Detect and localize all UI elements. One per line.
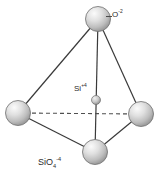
- oxygen-sphere-left: [6, 101, 31, 126]
- atom-oxygen-left: [6, 101, 31, 126]
- silicon-label: Si+4: [74, 84, 87, 93]
- oxygen-sphere-right: [129, 102, 154, 127]
- oxygen-sphere-top: [86, 7, 111, 32]
- bond-top-left: [18, 19, 98, 113]
- formula-subscript: 4: [53, 163, 56, 169]
- oxygen-sphere-bottom: [83, 140, 108, 165]
- silicate-tetrahedron-diagram: O-2 Si+4 SiO4-4: [0, 0, 160, 184]
- atom-silicon-center: [92, 96, 101, 105]
- atom-oxygen-top: [86, 7, 111, 32]
- bond-top-bottom: [95, 19, 98, 152]
- oxygen-label: O-2: [112, 10, 123, 19]
- atom-oxygen-bottom: [83, 140, 108, 165]
- formula-caption: SiO4-4: [38, 157, 61, 169]
- silicon-sphere: [92, 96, 101, 105]
- bond-left-right-hidden: [18, 113, 141, 114]
- bond-top-right: [98, 19, 141, 114]
- bond-left-bottom: [18, 113, 95, 152]
- silicon-charge: +4: [81, 83, 87, 88]
- formula-charge: -4: [56, 156, 61, 162]
- atom-oxygen-right: [129, 102, 154, 127]
- oxygen-charge: -2: [118, 9, 122, 14]
- formula-element-symbols: SiO: [38, 157, 53, 167]
